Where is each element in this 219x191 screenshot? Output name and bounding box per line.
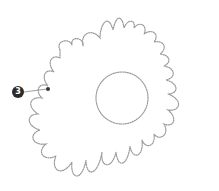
callout-badge-3: 3 [12,86,24,98]
callout-leader-line [24,89,47,92]
outer-petal-outline [29,18,178,176]
callout-target-dot [46,87,50,91]
flower-diagram [0,0,219,191]
flower-center-outline [96,72,148,124]
